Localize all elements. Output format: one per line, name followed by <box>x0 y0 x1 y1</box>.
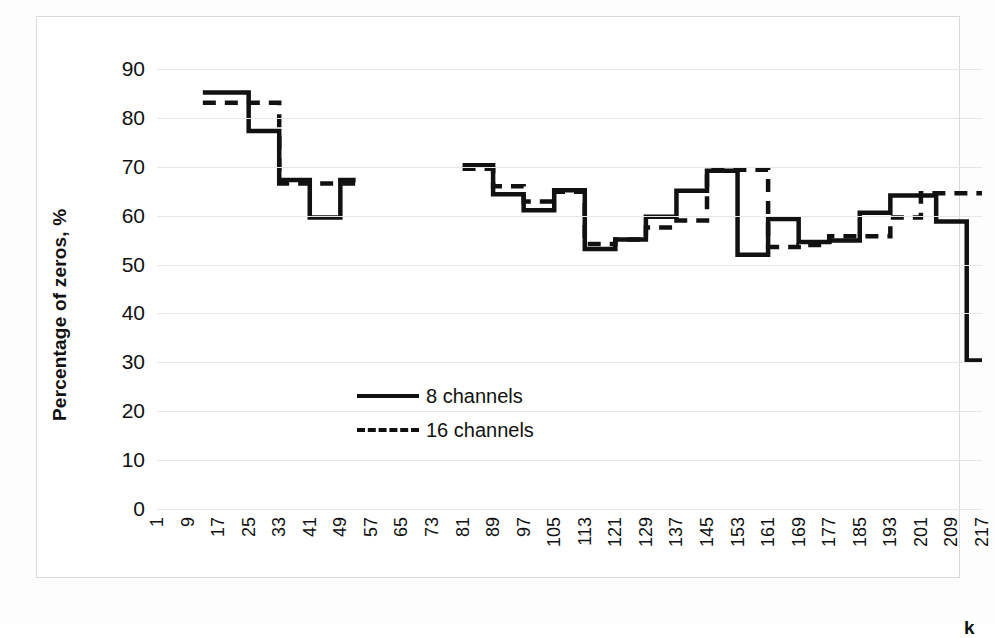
gridline <box>157 69 982 70</box>
y-axis-tick-label: 80 <box>85 106 145 130</box>
gridline <box>157 265 982 266</box>
y-axis-tick-label: 60 <box>85 204 145 228</box>
series-line-16-channels <box>463 169 982 247</box>
x-axis-tick-label: 185 <box>849 517 870 547</box>
x-axis-tick-label: 153 <box>727 517 748 547</box>
plot-area <box>157 69 982 509</box>
x-axis-tick-label: 97 <box>513 517 534 537</box>
y-axis-tick-label: 40 <box>85 301 145 325</box>
legend-item-0[interactable]: 8 channels <box>357 379 534 413</box>
y-axis-tick-label: 20 <box>85 399 145 423</box>
gridline <box>157 313 982 314</box>
x-axis-tick-label: 129 <box>635 517 656 547</box>
gridline <box>157 509 982 510</box>
legend-swatch-solid <box>357 394 419 398</box>
legend-swatch-dashed <box>357 428 419 432</box>
x-axis-tick-label: 33 <box>269 517 290 537</box>
x-axis-tick-label: 57 <box>360 517 381 537</box>
legend-item-1[interactable]: 16 channels <box>357 413 534 447</box>
gridline <box>157 411 982 412</box>
x-axis-tick-label: 41 <box>299 517 320 537</box>
chart-frame: 0102030405060708090 19172533414957657381… <box>36 16 960 578</box>
chart-legend: 8 channels16 channels <box>357 379 534 447</box>
x-axis-tick-label: 193 <box>880 517 901 547</box>
x-axis-tick-label: 1 <box>147 517 168 527</box>
series-line-8-channels <box>203 92 356 217</box>
x-axis-tick-label: 121 <box>605 517 626 547</box>
gridline <box>157 118 982 119</box>
legend-label: 16 channels <box>426 419 534 442</box>
y-axis-title: Percentage of zeros, % <box>49 209 71 421</box>
x-axis-title: k <box>964 617 975 638</box>
x-axis-tick-label: 25 <box>238 517 259 537</box>
x-axis-tick-label: 169 <box>788 517 809 547</box>
x-axis-tick-label: 105 <box>544 517 565 547</box>
x-axis-tick-label: 161 <box>758 517 779 547</box>
x-axis-tick-label: 73 <box>422 517 443 537</box>
x-axis-tick-label: 65 <box>391 517 412 537</box>
gridline <box>157 362 982 363</box>
x-axis-tick-label: 217 <box>972 517 993 547</box>
x-axis-tick-label: 81 <box>452 517 473 537</box>
y-axis-tick-label: 30 <box>85 350 145 374</box>
y-axis-tick-label: 70 <box>85 155 145 179</box>
x-axis-tick-label: 17 <box>208 517 229 537</box>
y-axis-tick-label: 0 <box>85 497 145 521</box>
x-axis-tick-label: 201 <box>910 517 931 547</box>
series-line-16-channels <box>203 103 356 184</box>
x-axis-tick-label: 9 <box>177 517 198 527</box>
x-axis-tick-label: 209 <box>941 517 962 547</box>
y-axis-tick-label: 50 <box>85 253 145 277</box>
chart-svg <box>157 69 982 509</box>
x-axis-tick-label: 89 <box>483 517 504 537</box>
gridline <box>157 216 982 217</box>
x-axis-tick-label: 137 <box>666 517 687 547</box>
y-axis-tick-label: 10 <box>85 448 145 472</box>
x-axis-tick-label: 145 <box>697 517 718 547</box>
x-axis-tick-label: 49 <box>330 517 351 537</box>
gridline <box>157 167 982 168</box>
series-line-8-channels <box>463 165 982 360</box>
legend-label: 8 channels <box>426 385 523 408</box>
gridline <box>157 460 982 461</box>
x-axis-tick-label: 113 <box>574 517 595 546</box>
y-axis-tick-label: 90 <box>85 57 145 81</box>
x-axis-tick-label: 177 <box>819 517 840 547</box>
